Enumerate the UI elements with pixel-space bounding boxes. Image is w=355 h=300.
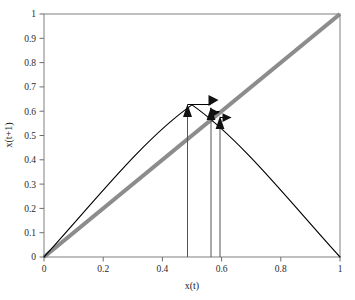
chart-figure: 0 0.1 0.2 0.3 0.4 0.5 0.6 0.7 0.8 0.9 1 …: [0, 0, 355, 300]
y-tick-label: 0.7: [24, 82, 36, 92]
y-tick-label: 0.2: [24, 204, 36, 214]
x-tick-label: 0.2: [97, 264, 109, 274]
y-tick-label: 0: [31, 252, 36, 262]
logistic-map-cobweb-chart: 0 0.1 0.2 0.3 0.4 0.5 0.6 0.7 0.8 0.9 1 …: [0, 0, 355, 300]
y-tick-label: 1: [31, 9, 36, 19]
y-tick-label: 0.4: [24, 155, 36, 165]
y-tick-label: 0.5: [24, 131, 36, 141]
y-tick-label: 0.1: [24, 228, 36, 238]
x-tick-label: 0.4: [156, 264, 168, 274]
x-tick-label: 0.6: [216, 264, 228, 274]
x-tick-label: 0.8: [275, 264, 287, 274]
y-tick-label: 0.9: [24, 34, 36, 44]
y-tick-label: 0.8: [24, 58, 36, 68]
x-tick-label: 1: [338, 264, 343, 274]
y-tick-label: 0.6: [24, 107, 36, 117]
y-axis-title: x(t+1): [3, 122, 15, 147]
x-tick-label: 0: [42, 264, 47, 274]
y-tick-label: 0.3: [24, 180, 36, 190]
x-axis-title: x(t): [185, 280, 199, 292]
